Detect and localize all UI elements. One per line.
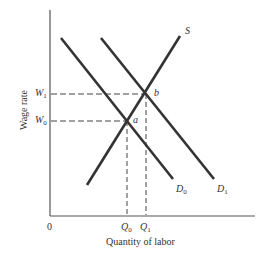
labor-market-diagram: S D0 D1 b a W1 W0 Q0 Q1 0 Quantity of la…	[0, 0, 270, 254]
supply-label: S	[185, 26, 190, 36]
q1-tick-label: Q1	[140, 222, 151, 234]
point-b-label: b	[154, 88, 159, 98]
y-axis-title: Wage rate	[19, 90, 29, 130]
origin-label: 0	[47, 222, 52, 232]
w0-tick-label: W0	[35, 115, 47, 127]
diagram-graphics	[0, 0, 270, 254]
q0-tick-label: Q0	[121, 222, 132, 234]
w1-tick-label: W1	[35, 88, 47, 100]
d1-label: D1	[217, 184, 228, 196]
x-axis-title: Quantity of labor	[106, 237, 175, 247]
point-a-label: a	[133, 115, 138, 125]
supply-curve-s	[87, 36, 180, 185]
d0-label: D0	[176, 184, 187, 196]
